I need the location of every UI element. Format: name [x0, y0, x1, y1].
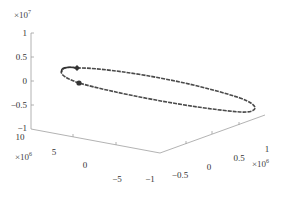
z-tick-neg0.5: −0.5 — [11, 100, 28, 110]
orbit-3d-plot: 1 0.5 0 −0.5 −1 ×107 10 5 0 −5 ×106 −1 −… — [0, 0, 281, 198]
x-tick-0: 0 — [207, 162, 212, 172]
x-axis-line — [160, 115, 265, 153]
x-tick-neg0.5: −0.5 — [172, 170, 189, 180]
end-marker-circle-icon — [76, 80, 81, 85]
y-tick-5: 5 — [52, 147, 57, 157]
x-tick-neg1: −1 — [145, 174, 155, 184]
z-tick-0: 0 — [23, 76, 28, 86]
y-tick-10: 10 — [16, 132, 26, 142]
x-exponent-label: ×106 — [252, 158, 269, 169]
z-tick-0.5: 0.5 — [16, 52, 28, 62]
y-exponent-label: ×106 — [15, 151, 32, 162]
y-tick-labels: 10 5 0 −5 — [16, 132, 123, 184]
z-exponent-label: ×107 — [14, 9, 31, 20]
y-tick-0: 0 — [83, 160, 88, 170]
z-tick-labels: 1 0.5 0 −0.5 −1 — [11, 28, 28, 133]
start-marker-diamond-icon — [74, 65, 80, 71]
orbit-series — [61, 65, 255, 112]
axes — [31, 33, 265, 153]
z-tick-1: 1 — [23, 28, 28, 38]
orbit-curve-outer — [61, 67, 255, 112]
x-tick-1: 1 — [265, 144, 270, 154]
x-tick-labels: −1 −0.5 0 0.5 1 — [145, 144, 269, 184]
x-tick-0.5: 0.5 — [233, 153, 245, 163]
y-tick-neg5: −5 — [112, 174, 122, 184]
y-axis-line — [31, 129, 160, 153]
